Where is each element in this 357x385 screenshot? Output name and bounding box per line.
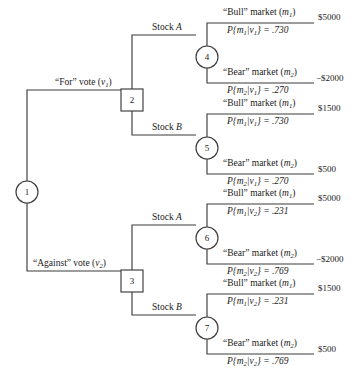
branch-label-for-vote: “For” vote (v1): [55, 78, 112, 88]
branch-label-stock-b-bottom: Stock B: [152, 303, 182, 313]
outcome-probability-label: P{m1|v2} = .231: [227, 207, 289, 217]
node-7-label: 7: [197, 324, 217, 333]
outcome-probability-label: P{m2|v1} = .270: [227, 86, 289, 96]
branch-label-stock-a-top: Stock A: [152, 23, 182, 33]
outcome-payoff-value: $1500: [318, 104, 341, 113]
outcome-payoff-value: $5000: [318, 194, 341, 203]
node-4-label: 4: [197, 53, 217, 62]
node-2-label: 2: [122, 96, 142, 105]
edge-3-to-6: [132, 225, 196, 270]
outcome-market-label: “Bull” market (m1): [223, 279, 295, 289]
outcome-market-label: “Bear” market (m2): [223, 159, 297, 169]
outcome-probability-label: P{m1|v2} = .231: [227, 297, 289, 307]
outcome-market-label: “Bear” market (m2): [223, 339, 297, 349]
outcome-market-label: “Bull” market (m1): [223, 99, 295, 109]
outcome-probability-label: P{m1|v1} = .730: [227, 26, 289, 36]
outcome-market-label: “Bear” market (m2): [223, 68, 297, 78]
outcome-market-label: “Bear” market (m2): [223, 249, 297, 259]
outcome-probability-label: P{m1|v1} = .730: [227, 117, 289, 127]
edge-1-to-2: [27, 90, 121, 181]
node-1-label: 1: [17, 188, 37, 197]
branch-label-stock-b-top: Stock B: [152, 123, 182, 133]
outcome-payoff-value: $500: [318, 345, 336, 354]
node-3-label: 3: [122, 277, 142, 286]
outcome-payoff-value: −$2000: [316, 255, 344, 264]
node-5-label: 5: [197, 144, 217, 153]
outcome-payoff-value: −$2000: [316, 74, 344, 83]
outcome-market-label: “Bull” market (m1): [223, 8, 295, 18]
outcome-market-label: “Bull” market (m1): [223, 189, 295, 199]
outcome-probability-label: P{m2|v2} = .769: [227, 267, 289, 277]
outcome-probability-label: P{m2|v1} = .270: [227, 177, 289, 187]
branch-label-against-vote: “Against” vote (v2): [33, 259, 106, 269]
outcome-probability-label: P{m2|v2} = .769: [227, 357, 289, 367]
outcome-payoff-value: $1500: [318, 284, 341, 293]
node-6-label: 6: [197, 234, 217, 243]
edge-2-to-4: [132, 35, 196, 89]
decision-tree-canvas: [0, 0, 357, 385]
outcome-payoff-value: $5000: [318, 13, 341, 22]
outcome-payoff-value: $500: [318, 165, 336, 174]
branch-label-stock-a-bottom: Stock A: [152, 213, 182, 223]
